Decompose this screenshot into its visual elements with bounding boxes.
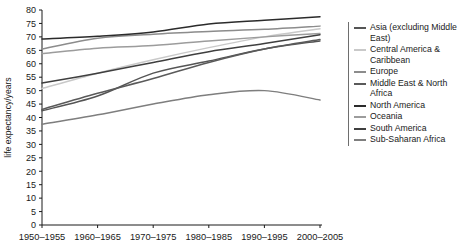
y-tick-label: 80 [26, 5, 36, 15]
y-tick-label: 25 [26, 153, 36, 163]
y-tick-label: 30 [26, 140, 36, 150]
legend-item[interactable]: North America [354, 100, 460, 111]
series-line-south-america [42, 35, 320, 83]
legend-item[interactable]: Central America & Caribbean [354, 44, 460, 65]
y-tick-label: 70 [26, 32, 36, 42]
legend-color-swatch-icon [354, 49, 366, 51]
legend-item-label: South America [370, 123, 427, 134]
legend-item-label: Asia (excluding Middle East) [370, 22, 460, 43]
legend-color-swatch-icon [354, 105, 366, 107]
legend-item-label: Europe [370, 66, 398, 77]
y-tick-label: 0 [31, 220, 36, 230]
y-tick-label: 35 [26, 126, 36, 136]
y-tick-label: 5 [31, 207, 36, 217]
x-tick-label: 1960–1965 [74, 232, 121, 242]
series-line-sub-saharan-africa [42, 90, 320, 124]
legend-item[interactable]: Asia (excluding Middle East) [354, 22, 460, 43]
y-tick-label: 40 [26, 113, 36, 123]
y-axis-title: life expectancy/years [3, 77, 13, 157]
x-tick-label: 1990–1995 [241, 232, 288, 242]
y-tick-label: 65 [26, 46, 36, 56]
legend-color-swatch-icon [354, 83, 366, 85]
legend-item[interactable]: South America [354, 123, 460, 134]
legend-color-swatch-icon [354, 71, 366, 73]
legend-color-swatch-icon [354, 139, 366, 141]
legend-color-swatch-icon [354, 27, 366, 29]
x-tick-label: 1950–1955 [19, 232, 66, 242]
axis-labels-group: 051015202530354045505560657075801950–195… [3, 5, 343, 242]
y-tick-label: 55 [26, 72, 36, 82]
legend-item-label: Middle East & North Africa [370, 78, 460, 99]
y-tick-label: 10 [26, 193, 36, 203]
y-tick-label: 15 [26, 180, 36, 190]
y-tick-label: 20 [26, 167, 36, 177]
legend-color-swatch-icon [354, 128, 366, 130]
legend-item[interactable]: Sub-Saharan Africa [354, 134, 460, 145]
x-tick-label: 2000–2005 [297, 232, 344, 242]
legend-item[interactable]: Europe [354, 66, 460, 77]
legend-item-label: Sub-Saharan Africa [370, 134, 445, 145]
legend-item[interactable]: Middle East & North Africa [354, 78, 460, 99]
series-group [42, 17, 320, 125]
y-tick-label: 60 [26, 59, 36, 69]
legend-item-label: North America [370, 100, 425, 111]
y-tick-label: 75 [26, 19, 36, 29]
legend-color-swatch-icon [354, 116, 366, 118]
y-tick-label: 50 [26, 86, 36, 96]
chart-legend: Asia (excluding Middle East)Central Amer… [348, 22, 460, 146]
x-tick-label: 1980–1985 [186, 232, 233, 242]
life-expectancy-chart-figure: 051015202530354045505560657075801950–195… [0, 0, 464, 244]
legend-item[interactable]: Oceania [354, 111, 460, 122]
legend-item-label: Central America & Caribbean [370, 44, 460, 65]
y-tick-label: 45 [26, 99, 36, 109]
x-tick-label: 1970–1975 [130, 232, 177, 242]
legend-item-label: Oceania [370, 111, 402, 122]
